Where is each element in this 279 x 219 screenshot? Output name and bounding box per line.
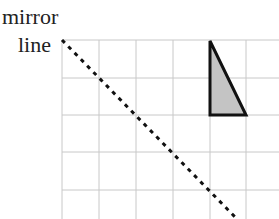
grid-diagram (0, 0, 279, 219)
square-grid (62, 40, 279, 219)
